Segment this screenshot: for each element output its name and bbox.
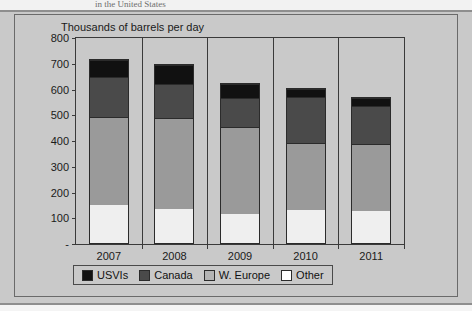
legend-swatch-icon xyxy=(204,270,215,281)
legend-item-canada: Canada xyxy=(139,269,193,281)
bar-segment-canada xyxy=(90,77,128,116)
x-axis-tick-label-2011: 2011 xyxy=(359,250,383,262)
legend-item-other: Other xyxy=(281,269,324,281)
scan-margin-bottom xyxy=(0,305,472,311)
bar-2009 xyxy=(220,83,260,244)
legend-label: Canada xyxy=(154,269,193,281)
x-axis-tick-mark xyxy=(338,244,339,249)
scan-rule-top xyxy=(0,10,472,12)
y-axis-tick-mark xyxy=(72,90,76,91)
bar-segment-usvis xyxy=(221,84,259,98)
x-axis-divider xyxy=(338,38,339,244)
x-axis-tick-label-2009: 2009 xyxy=(228,250,252,262)
x-axis-tick-label-2008: 2008 xyxy=(162,250,186,262)
y-axis-tick-mark xyxy=(72,64,76,65)
x-axis-tick-label-2010: 2010 xyxy=(293,250,317,262)
bar-segment-canada xyxy=(287,97,325,143)
chart-legend: USVIsCanadaW. EuropeOther xyxy=(73,265,333,285)
x-axis-tick-mark xyxy=(404,244,405,249)
bar-segment-weurope xyxy=(90,117,128,205)
bar-segment-weurope xyxy=(155,118,193,208)
y-axis-tick-mark xyxy=(72,193,76,194)
plot-inner xyxy=(76,38,404,244)
x-axis-tick-mark xyxy=(207,244,208,249)
y-axis-tick-mark xyxy=(72,38,76,39)
bar-segment-other xyxy=(90,205,128,243)
bar-2007 xyxy=(89,59,129,244)
legend-swatch-icon xyxy=(281,270,292,281)
bar-segment-usvis xyxy=(352,98,390,106)
legend-swatch-icon xyxy=(82,270,93,281)
x-axis-divider xyxy=(207,38,208,244)
bar-segment-usvis xyxy=(155,65,193,84)
bar-segment-other xyxy=(352,211,390,243)
y-axis-label: Thousands of barrels per day xyxy=(61,21,204,33)
legend-swatch-icon xyxy=(139,270,150,281)
legend-item-usvis: USVIs xyxy=(82,269,128,281)
bar-segment-canada xyxy=(155,84,193,118)
legend-label: USVIs xyxy=(97,269,128,281)
bar-segment-weurope xyxy=(287,143,325,210)
clipped-header-text: in the United States xyxy=(95,0,295,8)
x-axis-divider xyxy=(273,38,274,244)
bar-2008 xyxy=(154,64,194,244)
bar-segment-usvis xyxy=(287,89,325,98)
plot-area: -100200300400500600700800200720082009201… xyxy=(75,37,405,245)
bar-2010 xyxy=(286,88,326,244)
x-axis-tick-mark xyxy=(142,244,143,249)
y-axis-tick-mark xyxy=(72,218,76,219)
y-axis-tick-mark xyxy=(72,167,76,168)
bar-segment-usvis xyxy=(90,60,128,78)
bar-segment-other xyxy=(155,209,193,243)
x-axis-tick-mark xyxy=(273,244,274,249)
chart-page: in the United States Thousands of barrel… xyxy=(0,0,472,311)
legend-item-weurope: W. Europe xyxy=(204,269,270,281)
bar-segment-other xyxy=(221,214,259,243)
x-axis-tick-label-2007: 2007 xyxy=(97,250,121,262)
bar-segment-weurope xyxy=(221,127,259,213)
figure-frame: Thousands of barrels per day -1002003004… xyxy=(14,14,458,297)
bar-2011 xyxy=(351,97,391,244)
bar-segment-weurope xyxy=(352,144,390,211)
legend-label: W. Europe xyxy=(219,269,270,281)
y-axis-tick-mark xyxy=(72,141,76,142)
y-axis-tick-mark xyxy=(72,244,76,245)
bar-segment-canada xyxy=(352,106,390,145)
bar-segment-other xyxy=(287,210,325,243)
bar-segment-canada xyxy=(221,98,259,127)
x-axis-divider xyxy=(142,38,143,244)
legend-label: Other xyxy=(296,269,324,281)
y-axis-tick-mark xyxy=(72,115,76,116)
